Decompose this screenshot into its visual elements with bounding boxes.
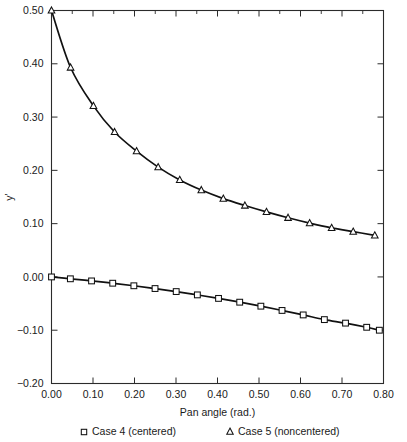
square-marker: [194, 292, 200, 298]
y-tick-label: 0.40: [23, 57, 44, 69]
square-marker: [110, 280, 116, 286]
x-tick-label: 0.30: [166, 388, 187, 400]
x-tick-label: 0.80: [373, 388, 394, 400]
y-axis-title: y': [3, 193, 15, 200]
square-marker: [343, 320, 349, 326]
series-line-2: [52, 11, 375, 236]
chart-svg: −0.20−0.100.000.100.200.300.400.50 0.000…: [0, 0, 407, 442]
x-axis-title: Pan angle (rad.): [180, 406, 255, 418]
square-marker: [258, 303, 264, 309]
square-marker: [279, 308, 285, 314]
x-axis-ticks: [52, 378, 384, 384]
x-tick-label: 0.70: [332, 388, 353, 400]
square-marker: [67, 276, 73, 282]
square-marker: [300, 312, 306, 318]
series-line-1: [52, 277, 380, 330]
square-marker: [376, 327, 382, 333]
x-tick-label: 0.60: [290, 388, 311, 400]
legend-triangle-marker: [227, 428, 233, 434]
square-marker: [89, 278, 95, 284]
y-axis-ticks: [52, 11, 58, 384]
square-marker: [152, 286, 158, 292]
y-tick-label: 0.30: [23, 111, 44, 123]
legend-label-2: Case 5 (noncentered): [238, 425, 340, 437]
x-tick-label: 0.40: [207, 388, 228, 400]
legend-square-marker: [81, 429, 86, 434]
chart-legend: Case 4 (centered)Case 5 (noncentered): [81, 425, 339, 437]
data-series-group: [48, 7, 382, 333]
legend-label-1: Case 4 (centered): [92, 425, 176, 437]
y-tick-label: −0.20: [17, 377, 44, 389]
triangle-marker: [155, 164, 162, 170]
square-marker: [237, 299, 243, 305]
x-tick-label: 0.50: [249, 388, 270, 400]
y-tick-label: 0.20: [23, 164, 44, 176]
square-marker: [131, 283, 137, 289]
series-1: [49, 274, 383, 333]
chart-figure: −0.20−0.100.000.100.200.300.400.50 0.000…: [0, 0, 407, 442]
y-tick-label: −0.10: [17, 324, 44, 336]
x-tick-label: 0.00: [41, 388, 62, 400]
square-marker: [49, 274, 55, 280]
x-tick-label: 0.20: [124, 388, 145, 400]
square-marker: [173, 289, 179, 295]
y-tick-label: 0.10: [23, 217, 44, 229]
square-marker: [321, 317, 327, 323]
x-axis-tick-labels: 0.000.100.200.300.400.500.600.700.80: [41, 388, 394, 400]
y-tick-label: 0.00: [23, 271, 44, 283]
series-2: [48, 7, 378, 238]
triangle-marker: [67, 64, 74, 70]
y-tick-label: 0.50: [23, 4, 44, 16]
top-axis-ticks: [52, 11, 384, 17]
square-marker: [364, 324, 370, 330]
y-axis-tick-labels: −0.20−0.100.000.100.200.300.400.50: [17, 4, 44, 389]
square-marker: [216, 296, 222, 302]
x-tick-label: 0.10: [83, 388, 104, 400]
